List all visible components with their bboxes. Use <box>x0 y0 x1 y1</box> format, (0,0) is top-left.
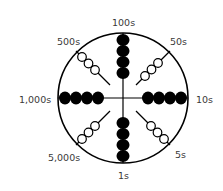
label-bottom-right: 5s <box>175 150 186 160</box>
spoke-top-beads <box>117 34 130 79</box>
label-top-left: 500s <box>57 37 80 47</box>
label-bottom: 1s <box>118 171 129 181</box>
spoke-bottom-left-beads <box>78 122 100 144</box>
label-top-right: 50s <box>170 37 187 47</box>
spoke-top-right-beads <box>141 59 163 81</box>
label-bottom-left: 5,000s <box>48 153 80 163</box>
label-top: 100s <box>112 18 135 28</box>
spoke-left-beads <box>59 92 104 105</box>
label-right: 10s <box>196 95 213 105</box>
label-left: 1,000s <box>19 95 51 105</box>
abacus-wheel-diagram: 100s 50s 10s 5s 1s 5,000s 1,000s 500s <box>0 0 223 191</box>
spoke-right-beads <box>142 92 187 105</box>
spoke-top-left-beads <box>78 53 100 75</box>
spoke-bottom-beads <box>117 117 130 162</box>
spoke-bottom-right-beads <box>147 122 169 144</box>
